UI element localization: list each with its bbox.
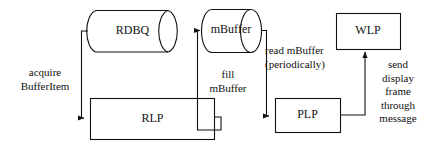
edge-label-send-line5: message: [370, 112, 426, 126]
node-shape-rlp: [91, 99, 215, 140]
node-shape-mbuffer: [202, 10, 262, 53]
edge-label-send-line2: display: [370, 72, 426, 86]
edge-label-acquire-bufferitem: acquire BufferItem: [8, 66, 82, 93]
edge-label-acquire-line2: BufferItem: [8, 80, 82, 94]
edge-label-send-line1: send: [370, 58, 426, 72]
flow-diagram-canvas: RDBQ mBuffer WLP RLP PLP acquire BufferI…: [0, 0, 427, 155]
edge-rdbq-to-rlp: [82, 31, 89, 118]
edge-label-send-line3: frame: [370, 85, 426, 99]
edge-label-read-line1: read mBuffer: [265, 44, 349, 58]
edge-label-fill-mbuffer: fill mBuffer: [202, 68, 254, 95]
edge-label-read-line2: (periodically): [265, 58, 349, 72]
edge-label-send-line4: through: [370, 99, 426, 113]
edge-label-read-mbuffer: read mBuffer (periodically): [265, 44, 349, 71]
edge-label-fill-line1: fill: [202, 68, 254, 82]
node-shape-rdbq: [87, 11, 178, 53]
edge-label-acquire-line1: acquire: [8, 66, 82, 80]
node-shape-plp: [276, 99, 341, 133]
edge-label-fill-line2: mBuffer: [202, 82, 254, 96]
edge-label-send-display-frame: send display frame through message: [370, 58, 426, 126]
